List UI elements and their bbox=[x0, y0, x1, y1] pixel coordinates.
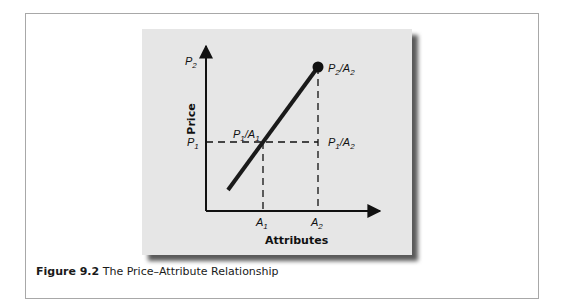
price-attribute-line bbox=[228, 67, 318, 190]
p1a2-label: P1/A2 bbox=[328, 136, 355, 151]
x-axis-label: Attributes bbox=[265, 234, 329, 247]
p2-tick-label: P2 bbox=[185, 55, 197, 70]
p2a2-point bbox=[313, 62, 324, 73]
y-axis-label: Price bbox=[185, 103, 198, 134]
price-attribute-diagram: P2 P1 A1 A2 P1/A1 P1/A2 P2/A2 Attributes… bbox=[0, 0, 563, 307]
p1a1-label: P1/A1 bbox=[233, 128, 260, 143]
a2-tick-label: A2 bbox=[310, 216, 323, 231]
a1-tick-label: A1 bbox=[255, 216, 268, 231]
figure-caption: Figure 9.2 The Price–Attribute Relations… bbox=[36, 265, 279, 278]
p1-tick-label: P1 bbox=[187, 136, 199, 151]
figure-number: Figure 9.2 bbox=[36, 265, 99, 278]
figure-title: The Price–Attribute Relationship bbox=[103, 265, 279, 278]
p2a2-label: P2/A2 bbox=[328, 62, 355, 77]
